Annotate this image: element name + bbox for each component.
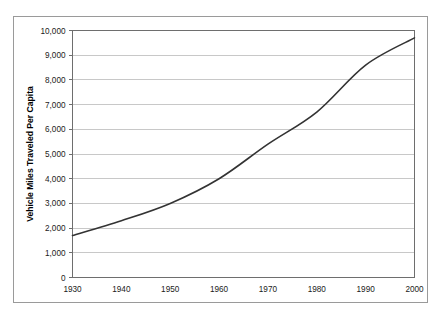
x-tick-label: 1970 bbox=[259, 285, 278, 294]
y-tick-label: 7,000 bbox=[45, 101, 66, 110]
x-tick-label: 1960 bbox=[210, 285, 229, 294]
data-line bbox=[73, 38, 415, 236]
y-tick-label: 8,000 bbox=[45, 76, 66, 85]
x-tick-label: 1950 bbox=[161, 285, 180, 294]
y-axis-title: Vehicle Miles Traveled Per Capita bbox=[25, 86, 35, 222]
y-tick-label: 5,000 bbox=[45, 150, 66, 159]
chart-figure: 01,0002,0003,0004,0005,0006,0007,0008,00… bbox=[0, 0, 443, 321]
y-tick-mark-group bbox=[69, 31, 73, 278]
y-tick-label: 9,000 bbox=[45, 51, 66, 60]
x-tick-label: 1930 bbox=[63, 285, 82, 294]
x-tick-label-group: 19301940195019601970198019902000 bbox=[63, 285, 424, 294]
x-tick-label: 1940 bbox=[112, 285, 131, 294]
y-axis-title-label: Vehicle Miles Traveled Per Capita bbox=[25, 86, 35, 222]
x-tick-label: 2000 bbox=[405, 285, 424, 294]
line-chart: 01,0002,0003,0004,0005,0006,0007,0008,00… bbox=[0, 0, 443, 321]
x-tick-label: 1980 bbox=[308, 285, 327, 294]
y-tick-label: 1,000 bbox=[45, 249, 66, 258]
y-tick-label: 4,000 bbox=[45, 175, 66, 184]
y-tick-label: 0 bbox=[61, 274, 66, 283]
y-tick-label-group: 01,0002,0003,0004,0005,0006,0007,0008,00… bbox=[40, 27, 65, 283]
y-tick-label: 10,000 bbox=[40, 27, 65, 36]
y-tick-label: 2,000 bbox=[45, 224, 66, 233]
y-tick-label: 3,000 bbox=[45, 199, 66, 208]
x-tick-label: 1990 bbox=[357, 285, 376, 294]
y-tick-label: 6,000 bbox=[45, 125, 66, 134]
data-series-group bbox=[73, 38, 415, 236]
